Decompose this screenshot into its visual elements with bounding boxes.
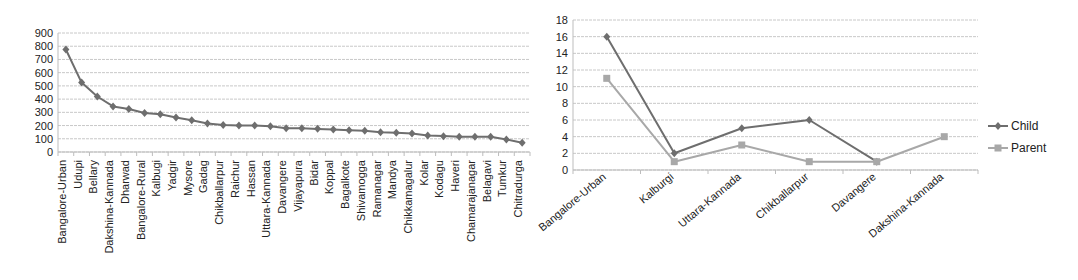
square-marker-icon — [941, 133, 948, 140]
x-tick-label: Kalburgi — [637, 170, 676, 205]
x-tick-label: Chikballarpur — [753, 170, 811, 221]
square-marker-icon — [671, 158, 678, 165]
child-parent-line-chart: 024681012141618 Bangalore-UrbanKalburgiU… — [0, 0, 1078, 280]
square-marker-icon — [873, 158, 880, 165]
y-tick-label: 14 — [556, 47, 568, 59]
legend-label: Parent — [1011, 141, 1047, 155]
y-tick-label: 16 — [556, 31, 568, 43]
diamond-marker-icon — [806, 116, 813, 124]
legend-item-child: Child — [988, 119, 1038, 133]
y-tick-label: 18 — [556, 14, 568, 26]
y-tick-label: 10 — [556, 81, 568, 93]
diamond-marker-icon — [738, 124, 745, 132]
diamond-marker-icon — [995, 122, 1002, 130]
square-marker-icon — [995, 145, 1002, 152]
legend-item-parent: Parent — [988, 141, 1047, 155]
square-marker-icon — [738, 142, 745, 149]
y-tick-label: 0 — [562, 164, 568, 176]
data-series-lines — [603, 33, 948, 166]
x-axis-labels: Bangalore-UrbanKalburgiUttara-KannadaChi… — [536, 170, 946, 240]
x-axis — [573, 20, 978, 174]
y-tick-label: 4 — [562, 131, 568, 143]
legend-label: Child — [1011, 119, 1038, 133]
legend: ChildParent — [988, 119, 1047, 155]
square-marker-icon — [603, 75, 610, 82]
y-axis-ticks: 024681012141618 — [556, 14, 568, 176]
square-marker-icon — [806, 158, 813, 165]
y-tick-label: 8 — [562, 97, 568, 109]
y-tick-label: 6 — [562, 114, 568, 126]
x-tick-label: Bangalore-Urban — [536, 170, 608, 233]
y-tick-label: 2 — [562, 147, 568, 159]
y-tick-label: 12 — [556, 64, 568, 76]
x-tick-label: Davangere — [829, 170, 878, 214]
x-tick-label: Uttara-Kannada — [676, 170, 744, 230]
x-tick-label: Dakshina-Kannada — [866, 170, 946, 240]
